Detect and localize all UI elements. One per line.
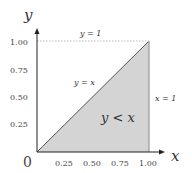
x-tick-025: 0.25 [55,159,73,168]
y-tick-050: 0.50 [10,93,28,102]
region-label: y < x [100,110,136,125]
x-tick-075: 0.75 [111,159,129,168]
x-tick-1: 1.00 [139,159,157,168]
y-axis-arrow-icon [35,28,40,34]
label-x-equals-1: x = 1 [155,94,176,103]
y-tick-025: 0.25 [10,120,28,129]
x-tick-050: 0.50 [83,159,101,168]
region-diagram: y x 0 1.00 0.75 0.50 0.25 0.25 0.50 0.75… [0,0,192,173]
y-tick-1: 1.00 [10,38,28,47]
label-y-equals-1: y = 1 [79,29,101,38]
y-axis-label: y [23,6,33,24]
x-axis-label: x [171,147,180,165]
origin-label: 0 [23,154,32,170]
label-y-equals-x: y = x [73,78,95,87]
x-axis-arrow-icon [159,150,165,155]
y-tick-075: 0.75 [10,66,28,75]
